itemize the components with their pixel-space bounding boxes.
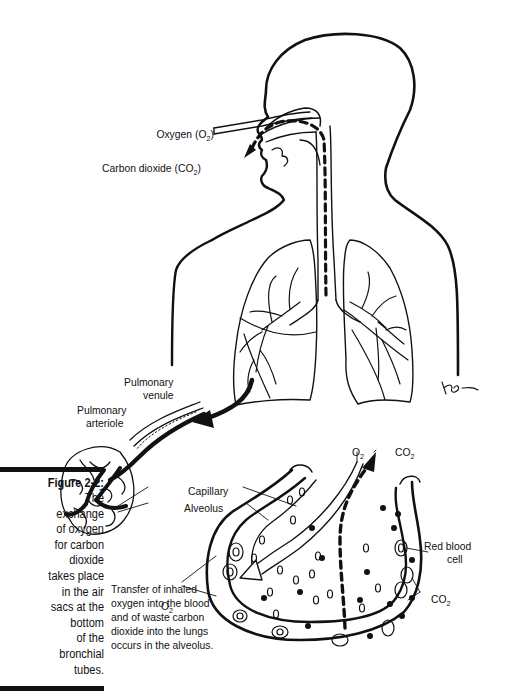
head-outline — [265, 34, 458, 375]
capillary-outer — [207, 470, 421, 640]
artist-signature — [442, 382, 478, 394]
caption-line: of oxygen — [12, 522, 104, 538]
red-blood-cell-label-line1: Red blood — [424, 540, 471, 553]
label-leaders — [118, 450, 428, 600]
caption-line: sacs at the — [12, 600, 104, 616]
co2-arrowhead — [362, 452, 376, 472]
figure-caption: Figure 2-2: The exchange of oxygen for c… — [0, 467, 104, 691]
pulmonary-venule-label-line1: Pulmonary — [124, 376, 173, 389]
o2-top-label-sub: 2 — [360, 452, 364, 461]
co2-top-label-text: CO — [395, 446, 411, 458]
red-blood-cell-label-line2: cell — [424, 553, 471, 566]
caption-line: bottom — [12, 616, 104, 632]
oxygen-label-close: ) — [211, 128, 214, 140]
caption-line: for carbon — [12, 538, 104, 554]
o2-top-label: O2 — [352, 446, 364, 463]
capillary-label: Capillary — [188, 485, 228, 498]
pulmonary-vessel-hatch — [136, 412, 196, 450]
caption-bottom-rule — [0, 686, 104, 691]
caption-line: exchange — [12, 507, 104, 523]
left-shoulder — [172, 240, 212, 365]
co2-top-label-sub: 2 — [411, 452, 415, 461]
alveolus-transfer-note: Transfer of inhaled oxygen into the bloo… — [111, 582, 213, 652]
carbon-dioxide-label-text: Carbon dioxide (CO — [102, 162, 193, 174]
alveolus-wall — [227, 478, 406, 622]
oxygen-flow-tube — [214, 112, 312, 134]
left-bronchial-tree — [240, 268, 300, 392]
right-bronchial-tree — [350, 272, 406, 384]
trachea-bend — [290, 300, 360, 325]
right-lung-lobe-line — [344, 310, 408, 400]
caption-line: in the air — [12, 585, 104, 601]
figure-caption-text: The exchange of oxygen for carbon dioxid… — [12, 491, 104, 678]
o2-top-label-text: O — [352, 446, 360, 458]
co2-right-label-sub: 2 — [447, 599, 451, 608]
caption-line: tubes. — [12, 663, 104, 679]
co2-top-label: CO2 — [395, 446, 415, 463]
tongue-throat — [272, 140, 320, 166]
caption-line: takes place — [12, 569, 104, 585]
caption-top-rule — [0, 467, 104, 472]
pulmonary-arteriole-label: Pulmonary arteriole — [77, 404, 126, 430]
caption-line: of the — [12, 631, 104, 647]
carbon-dioxide-label-close: ) — [198, 162, 201, 174]
zoom-arrow-shaft — [208, 380, 252, 418]
pulmonary-arteriole-label-line1: Pulmonary — [77, 404, 126, 417]
alveolus-label: Alveolus — [184, 502, 223, 515]
pulmonary-venule — [130, 402, 203, 446]
trachea — [316, 126, 336, 300]
red-blood-cell-label: Red blood cell — [424, 540, 471, 566]
face-profile — [212, 117, 284, 240]
oxygen-label: Oxygen (O2) — [156, 128, 214, 145]
oxygen-tube-alveolus — [254, 462, 363, 574]
caption-line: The — [12, 491, 104, 507]
co2-right-label: CO2 — [431, 593, 451, 610]
caption-line: bronchial — [12, 647, 104, 663]
carbon-dioxide-label: Carbon dioxide (CO2) — [102, 162, 201, 179]
pulmonary-arteriole-label-line2: arteriole — [77, 417, 126, 430]
pulmonary-venule-label-line2: venule — [124, 389, 173, 402]
caption-line: dioxide — [12, 553, 104, 569]
figure-number: Figure 2-2: — [12, 476, 104, 491]
co2-right-label-text: CO — [431, 593, 447, 605]
oxygen-label-text: Oxygen (O — [156, 128, 206, 140]
pulmonary-venule-label: Pulmonary venule — [124, 376, 173, 402]
